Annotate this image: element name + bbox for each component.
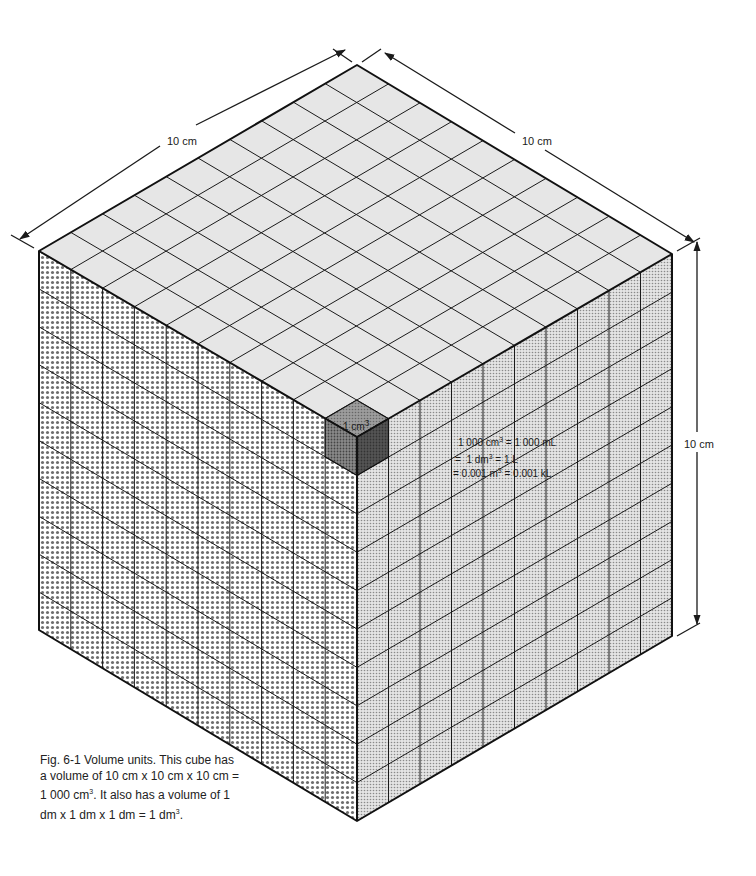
equivalence-line-3: = 0.001 m3 = 0.001 kL xyxy=(453,465,551,480)
unit-cube-label-sup: 3 xyxy=(365,418,370,428)
caption-part-3: . xyxy=(180,808,183,822)
dimension-label-height: 10 cm xyxy=(682,438,716,450)
cube-diagram xyxy=(0,0,756,876)
unit-cube-label-text: 1 cm xyxy=(343,421,365,432)
dimension-label-left-edge: 10 cm xyxy=(165,135,199,147)
unit-cube-label: 1 cm3 xyxy=(343,418,369,432)
equivalence-line-1: 1 000 cm3 = 1 000 mL xyxy=(458,434,556,449)
eq2-right: = 1 L xyxy=(493,454,518,465)
eq3-left: = 0.001 m xyxy=(453,468,498,479)
dimension-label-right-edge: 10 cm xyxy=(520,135,554,147)
eq2-left: = 1 dm xyxy=(455,454,489,465)
eq1-left: 1 000 cm xyxy=(458,437,499,448)
eq1-right: = 1 000 mL xyxy=(503,437,556,448)
eq3-right: = 0.001 kL xyxy=(502,468,552,479)
figure-caption: Fig. 6-1 Volume units. This cube has a v… xyxy=(40,753,240,823)
